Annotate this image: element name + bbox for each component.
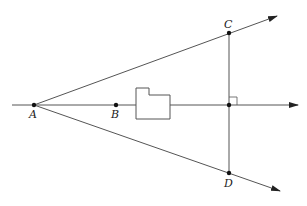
label-d: D (223, 177, 233, 190)
ray-ac (34, 16, 277, 105)
point-b (114, 103, 118, 107)
label-b: B (110, 108, 119, 121)
point-c (227, 31, 231, 35)
label-c: C (224, 18, 233, 31)
obstacle-shape (136, 88, 170, 119)
point-foot (227, 103, 231, 107)
geometry-diagram: A B C D (0, 0, 307, 206)
point-d (227, 171, 231, 175)
point-a (32, 103, 36, 107)
label-a: A (28, 108, 37, 121)
